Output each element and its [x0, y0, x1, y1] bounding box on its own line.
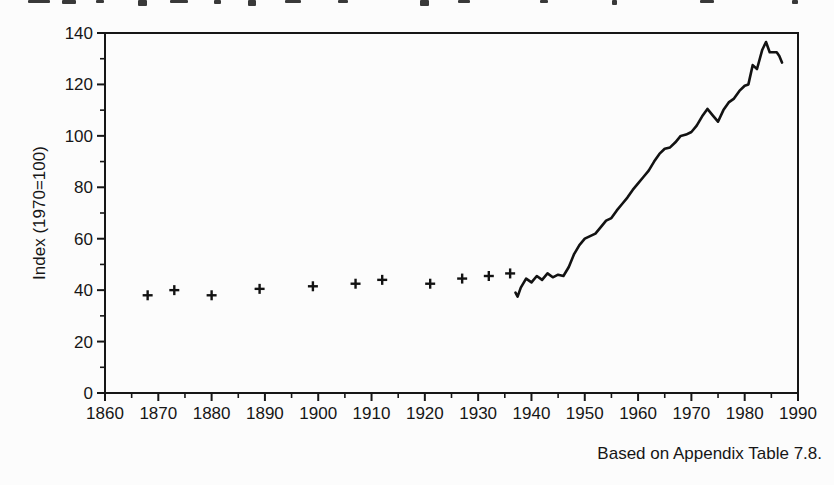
scanned-chart-page: 0204060801001201401860187018801890190019…: [0, 0, 834, 485]
plus-marker: [484, 271, 494, 281]
x-tick-label: 1930: [459, 404, 497, 423]
x-tick-label: 1890: [246, 404, 284, 423]
y-tick-label: 0: [84, 384, 93, 403]
plus-marker: [255, 284, 265, 294]
plus-marker: [351, 279, 361, 289]
plus-marker: [308, 281, 318, 291]
x-tick-label: 1960: [619, 404, 657, 423]
x-tick-label: 1980: [726, 404, 764, 423]
y-tick-label: 140: [65, 24, 93, 43]
chart-caption: Based on Appendix Table 7.8.: [597, 444, 822, 463]
plus-marker: [207, 290, 217, 300]
plus-marker: [377, 275, 387, 285]
x-tick-label: 1910: [353, 404, 391, 423]
y-axis-title: Index (1970=100): [30, 146, 49, 280]
plus-marker: [425, 279, 435, 289]
x-tick-label: 1990: [779, 404, 817, 423]
y-tick-label: 40: [74, 281, 93, 300]
y-tick-label: 80: [74, 178, 93, 197]
x-tick-label: 1920: [406, 404, 444, 423]
chart-canvas: 0204060801001201401860187018801890190019…: [0, 0, 834, 485]
plus-marker: [169, 285, 179, 295]
x-tick-label: 1970: [672, 404, 710, 423]
x-tick-label: 1950: [566, 404, 604, 423]
x-tick-label: 1940: [513, 404, 551, 423]
y-tick-label: 120: [65, 75, 93, 94]
x-tick-label: 1860: [86, 404, 124, 423]
axis-box: [105, 33, 798, 393]
plus-marker: [143, 290, 153, 300]
x-tick-label: 1900: [299, 404, 337, 423]
y-tick-label: 100: [65, 127, 93, 146]
y-tick-label: 20: [74, 333, 93, 352]
annual-index-line: [516, 42, 783, 297]
plus-marker: [505, 268, 515, 278]
x-tick-label: 1870: [139, 404, 177, 423]
y-tick-label: 60: [74, 230, 93, 249]
x-tick-label: 1880: [193, 404, 231, 423]
plus-marker: [457, 274, 467, 284]
